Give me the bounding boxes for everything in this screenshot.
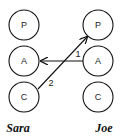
joe-parent-label: P [95, 20, 101, 30]
sara-parent-state: P [9, 10, 39, 40]
arrow-sara-child-to-joe-parent [38, 37, 87, 89]
joe-child-label: C [95, 92, 102, 102]
sara-child-state: C [9, 82, 39, 112]
sara-name-label: Sara [6, 121, 29, 135]
transaction-1-label: 1 [75, 49, 80, 59]
sara-adult-label: A [21, 56, 27, 66]
transaction-2: 2 [38, 37, 87, 89]
sara-child-label: C [21, 92, 28, 102]
joe-adult-label: A [95, 56, 101, 66]
transaction-1: 1 [41, 49, 83, 61]
joe-parent-state: P [83, 10, 113, 40]
joe-adult-state: A [83, 46, 113, 76]
transaction-2-label: 2 [48, 78, 53, 88]
joe-ego-states: P A C [83, 10, 113, 112]
joe-child-state: C [83, 82, 113, 112]
sara-ego-states: P A C [9, 10, 39, 112]
ego-state-diagram: P A C P A C 1 2 Sara [0, 0, 127, 137]
sara-adult-state: A [9, 46, 39, 76]
joe-name-label: Joe [94, 121, 113, 135]
sara-parent-label: P [21, 20, 27, 30]
